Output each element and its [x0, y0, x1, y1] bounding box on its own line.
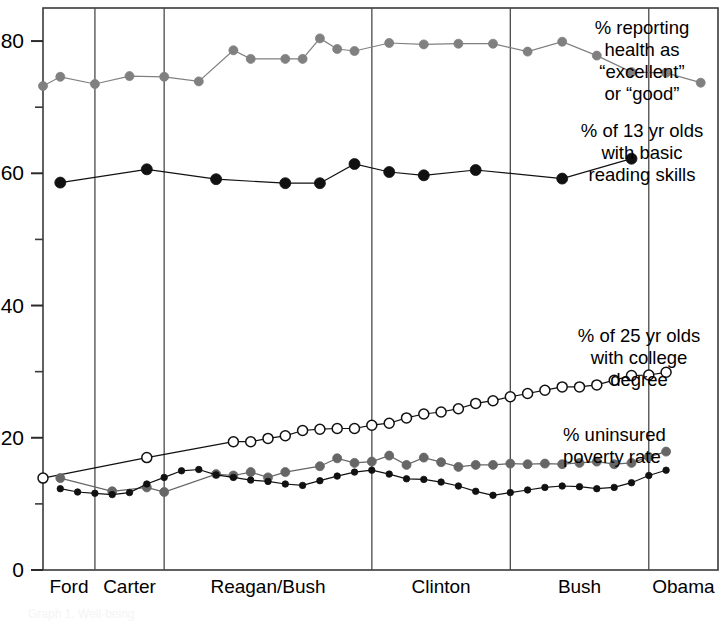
data-point: [367, 457, 376, 466]
data-point: [265, 478, 272, 485]
data-point: [471, 460, 480, 469]
data-point: [178, 468, 185, 475]
data-point: [92, 490, 99, 497]
data-point: [436, 407, 446, 417]
data-point: [558, 37, 567, 46]
data-point: [74, 489, 81, 496]
data-point: [557, 173, 568, 184]
data-point: [280, 178, 291, 189]
data-point: [385, 39, 394, 48]
data-point: [56, 474, 65, 483]
data-point: [523, 460, 532, 469]
data-point: [332, 424, 342, 434]
series-poverty-rate: [57, 466, 669, 498]
data-point: [349, 159, 360, 170]
data-point: [402, 460, 411, 469]
data-point: [141, 164, 152, 175]
data-point: [350, 424, 360, 434]
data-point: [142, 453, 152, 463]
data-point: [384, 418, 394, 428]
data-point: [229, 46, 238, 55]
data-point: [55, 177, 66, 188]
data-point: [540, 459, 549, 468]
data-point: [160, 72, 169, 81]
data-point: [211, 174, 222, 185]
data-point: [333, 45, 342, 54]
chart-figure: 020406080 FordCarterReagan/BushClintonBu…: [0, 0, 724, 624]
data-point: [247, 477, 254, 484]
data-point: [213, 472, 220, 479]
data-point: [39, 82, 48, 91]
y-tick-label: 60: [1, 161, 24, 184]
data-point: [523, 389, 533, 399]
period-label-ford: Ford: [49, 576, 88, 597]
data-point: [315, 424, 325, 434]
data-point: [418, 170, 429, 181]
series-annotation-reading: % of 13 yr olds with basic reading skill…: [569, 120, 715, 186]
data-point: [196, 466, 203, 473]
data-point: [369, 467, 376, 474]
data-point: [611, 484, 618, 491]
data-point: [317, 477, 324, 484]
data-point: [350, 47, 359, 56]
data-point: [246, 54, 255, 63]
data-point: [437, 458, 446, 467]
series-annotation-uninsured-poverty: % uninsured poverty rate: [563, 424, 721, 468]
data-point: [56, 72, 65, 81]
data-point: [230, 474, 237, 481]
data-point: [333, 454, 342, 463]
y-axis-ticks: [31, 41, 43, 570]
data-point: [246, 468, 255, 477]
data-point: [453, 404, 463, 414]
data-point: [246, 437, 256, 447]
data-point: [438, 479, 445, 486]
data-point: [367, 420, 377, 430]
data-point: [419, 409, 429, 419]
data-point: [646, 472, 653, 479]
data-point: [144, 481, 151, 488]
data-point: [454, 462, 463, 471]
data-point: [160, 488, 169, 497]
data-point: [506, 459, 515, 468]
data-point: [402, 413, 412, 423]
data-point: [419, 40, 428, 49]
data-point: [628, 479, 635, 486]
data-point: [594, 485, 601, 492]
data-point: [505, 392, 515, 402]
y-tick-label: 0: [12, 558, 24, 581]
data-point: [524, 487, 531, 494]
data-point: [559, 483, 566, 490]
data-point: [489, 460, 498, 469]
y-tick-label: 80: [1, 29, 24, 52]
y-axis-tick-labels: 020406080: [1, 29, 24, 581]
data-point: [350, 458, 359, 467]
y-tick-label: 20: [1, 426, 24, 449]
period-label-obama: Obama: [652, 576, 715, 597]
data-point: [299, 482, 306, 489]
data-point: [542, 484, 549, 491]
data-point: [507, 489, 514, 496]
data-point: [315, 34, 324, 43]
y-tick-label: 40: [1, 294, 24, 317]
data-point: [386, 471, 393, 478]
data-point: [490, 492, 497, 499]
series-of-13-yr-olds-with-basic-reading-skills: [55, 153, 637, 189]
data-point: [540, 385, 550, 395]
data-point: [298, 426, 308, 436]
data-point: [488, 396, 498, 406]
data-point: [281, 54, 290, 63]
series-annotation-college: % of 25 yr olds with college degree: [563, 325, 715, 391]
data-point: [228, 437, 238, 447]
data-point: [280, 431, 290, 441]
data-point: [421, 476, 428, 483]
period-label-reagan-bush: Reagan/Bush: [210, 576, 325, 597]
data-point: [281, 468, 290, 477]
data-point: [298, 54, 307, 63]
data-point: [334, 473, 341, 480]
data-point: [109, 491, 116, 498]
footer-note: Graph 1. Well-being: [28, 607, 135, 621]
series-annotation-health: % reporting health as “excellent” or “go…: [569, 17, 715, 105]
data-point: [263, 433, 273, 443]
period-label-bush: Bush: [558, 576, 601, 597]
data-point: [351, 469, 358, 476]
